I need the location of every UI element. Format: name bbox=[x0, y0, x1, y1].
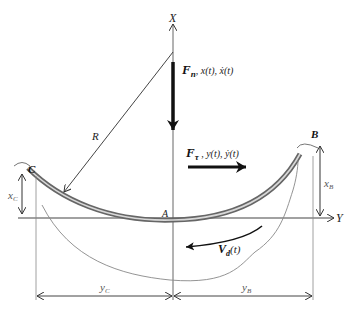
yc-dimension: yC bbox=[37, 281, 172, 296]
velocity-arrow: Vd(t) bbox=[186, 226, 262, 258]
xb-label: xB bbox=[323, 177, 334, 191]
radius-label: R bbox=[91, 130, 99, 142]
x-axis: X bbox=[168, 11, 177, 300]
radius-line: R bbox=[64, 52, 173, 192]
velocity-label: Vd(t) bbox=[218, 242, 241, 258]
yb-dimension: yB bbox=[174, 281, 312, 296]
yb-label: yB bbox=[241, 281, 252, 295]
tangential-force-arrow: Fτ , y(t), ẏ(t) bbox=[185, 145, 246, 167]
point-a-label: A bbox=[161, 208, 169, 219]
x-axis-label: X bbox=[168, 11, 177, 25]
tangential-force-label: Fτ , y(t), ẏ(t) bbox=[185, 145, 240, 162]
normal-force-arrow: Fn, x(t), ẋ(t) bbox=[173, 62, 234, 130]
normal-force-label: Fn, x(t), ẋ(t) bbox=[181, 62, 234, 79]
point-c-label: C bbox=[28, 163, 36, 175]
xc-dimension: xC bbox=[7, 174, 22, 214]
xb-dimension: xB bbox=[320, 146, 334, 216]
track-dynamics-diagram: X Y R Fn, x(t), ẋ(t) Fτ , y(t), ẏ(t) Vd(… bbox=[0, 0, 350, 310]
yc-label: yC bbox=[99, 281, 110, 295]
point-b-label: B bbox=[310, 128, 318, 140]
xc-label: xC bbox=[7, 189, 18, 203]
y-axis-label: Y bbox=[336, 211, 344, 225]
